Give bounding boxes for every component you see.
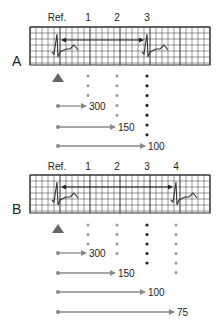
sequence-dot bbox=[145, 261, 148, 264]
sequence-dot bbox=[145, 133, 148, 136]
sequence-dot bbox=[175, 233, 178, 236]
sequence-dot bbox=[116, 114, 119, 117]
heart-rate-sequence-diagram: Ref. 1 2 3 A 300150100 Ref. 1 2 3 4 B 30… bbox=[0, 0, 223, 326]
sequence-dot bbox=[145, 252, 148, 255]
rate-label: 100 bbox=[148, 287, 165, 298]
column-label-1: 1 bbox=[85, 161, 91, 172]
sequence-dot bbox=[116, 233, 119, 236]
sequence-dot bbox=[116, 75, 119, 78]
column-label-3: 3 bbox=[144, 12, 150, 23]
sequence-dot bbox=[87, 75, 90, 78]
sequence-dot bbox=[87, 84, 90, 87]
qrs-complex bbox=[171, 182, 197, 205]
sequence-dot bbox=[87, 94, 90, 97]
reference-triangle-icon bbox=[52, 73, 64, 82]
sequence-dot bbox=[145, 114, 148, 117]
sequence-dot bbox=[87, 243, 90, 246]
sequence-dot bbox=[145, 242, 148, 245]
rate-label: 75 bbox=[177, 307, 189, 318]
sequence-dot bbox=[145, 123, 148, 126]
rate-label: 300 bbox=[89, 248, 106, 259]
sequence-dot bbox=[116, 243, 119, 246]
sequence-dot bbox=[145, 74, 148, 77]
sequence-dot bbox=[145, 233, 148, 236]
rate-label: 300 bbox=[89, 101, 106, 112]
sequence-dot bbox=[175, 224, 178, 227]
panel-b: Ref. 1 2 3 4 B 30015010075 bbox=[12, 161, 210, 318]
sequence-dot bbox=[175, 243, 178, 246]
sequence-dot bbox=[175, 252, 178, 255]
sequence-dot bbox=[116, 224, 119, 227]
rate-label: 150 bbox=[118, 122, 135, 133]
sequence-dot bbox=[145, 223, 148, 226]
reference-triangle-icon bbox=[52, 224, 64, 233]
panel-label-b: B bbox=[12, 201, 21, 217]
sequence-dot bbox=[87, 233, 90, 236]
sequence-dot bbox=[116, 84, 119, 87]
rate-label: 100 bbox=[148, 141, 165, 152]
column-label-ref: Ref. bbox=[48, 12, 66, 23]
column-label-2: 2 bbox=[114, 161, 120, 172]
qrs-complex bbox=[52, 34, 78, 57]
ecg-trace-a bbox=[52, 34, 168, 57]
sequence-dot bbox=[145, 84, 148, 87]
qrs-complex bbox=[52, 182, 78, 205]
sequence-dot bbox=[87, 224, 90, 227]
sequence-dot bbox=[175, 271, 178, 274]
ecg-trace-b bbox=[52, 182, 197, 205]
sequence-dot bbox=[145, 104, 148, 107]
qrs-complex bbox=[142, 34, 168, 57]
sequence-dot bbox=[116, 94, 119, 97]
sequence-dot bbox=[175, 262, 178, 265]
panel-a: Ref. 1 2 3 A 300150100 bbox=[12, 12, 210, 152]
column-label-4: 4 bbox=[173, 161, 179, 172]
sequence-dot bbox=[116, 104, 119, 107]
panel-label-a: A bbox=[12, 53, 22, 69]
column-label-3: 3 bbox=[144, 161, 150, 172]
rate-label: 150 bbox=[118, 268, 135, 279]
column-label-2: 2 bbox=[114, 12, 120, 23]
column-label-ref: Ref. bbox=[48, 161, 66, 172]
sequence-dot bbox=[116, 252, 119, 255]
column-label-1: 1 bbox=[85, 12, 91, 23]
sequence-dot bbox=[145, 94, 148, 97]
rate-arrows-b: 30015010075 bbox=[56, 248, 189, 318]
rate-arrows-a: 300150100 bbox=[56, 101, 165, 152]
